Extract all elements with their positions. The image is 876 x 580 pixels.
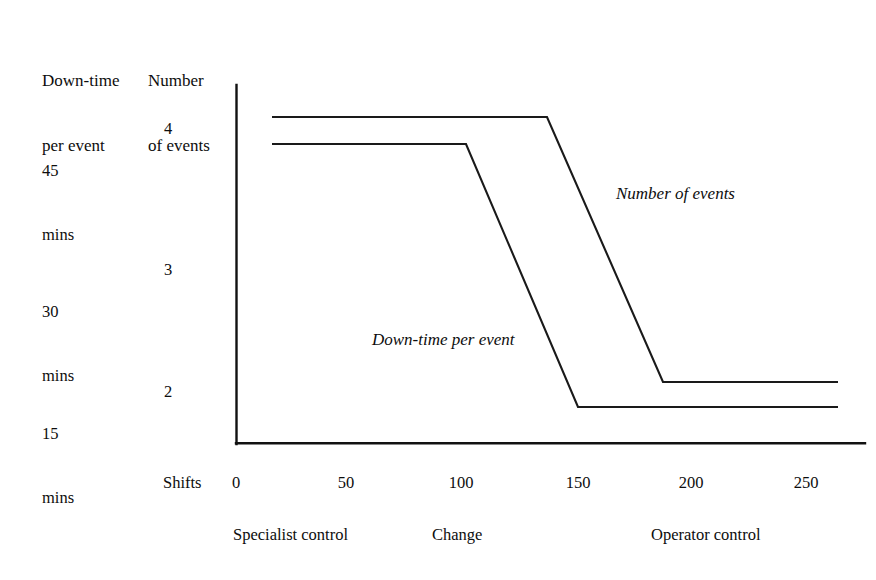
x-tick-0: 0 — [232, 472, 240, 493]
x-tick-50: 50 — [338, 472, 355, 493]
x-tick-100: 100 — [449, 472, 474, 493]
x-axis-title: Shifts — [163, 472, 202, 493]
phase-label-operator-control: Operator control — [651, 524, 761, 545]
series-label-number-of-events: Number of events — [616, 183, 735, 205]
series-label-down-time-per-event: Down-time per event — [372, 329, 515, 351]
x-tick-250: 250 — [794, 472, 819, 493]
series-line-down-time-per-event — [272, 144, 838, 407]
phase-label-change: Change — [432, 524, 482, 545]
plot-area — [0, 0, 876, 580]
series-line-number-of-events — [272, 117, 838, 382]
x-tick-150: 150 — [566, 472, 591, 493]
x-tick-200: 200 — [679, 472, 704, 493]
phase-label-specialist-control: Specialist control — [233, 524, 348, 545]
chart-figure: Down-time per event Number of events 45 … — [0, 0, 876, 580]
